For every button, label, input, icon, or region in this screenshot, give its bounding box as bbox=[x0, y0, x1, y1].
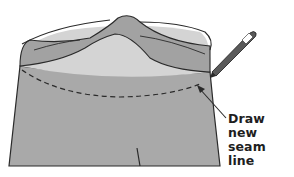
annotation-line-2: seam line bbox=[228, 140, 294, 168]
pencil-icon bbox=[210, 32, 256, 79]
annotation-label: Draw new seam line bbox=[228, 112, 294, 168]
annotation-line-1: Draw new bbox=[228, 112, 294, 140]
